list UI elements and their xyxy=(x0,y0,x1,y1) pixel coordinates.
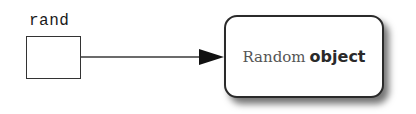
object-class-name: Random xyxy=(242,48,305,66)
object-label: Random object xyxy=(242,47,365,67)
arrowhead-icon xyxy=(199,49,224,65)
diagram-canvas: rand Random object xyxy=(0,0,416,114)
object-word: object xyxy=(310,47,366,66)
random-object-box: Random object xyxy=(224,15,384,98)
